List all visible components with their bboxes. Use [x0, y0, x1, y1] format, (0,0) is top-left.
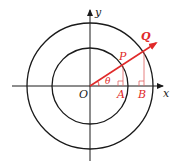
point-b-label: B: [137, 88, 146, 101]
right-angle-a: [118, 81, 123, 86]
point-p-label: P: [118, 50, 127, 63]
point-q-label: Q: [141, 30, 151, 43]
x-axis-label: x: [163, 87, 170, 100]
angle-arc: [98, 81, 100, 86]
point-a-label: A: [116, 88, 125, 101]
angle-theta-label: θ: [105, 76, 111, 86]
unit-circle-diagram: y x O P Q A B θ: [0, 0, 179, 168]
right-angle-b: [139, 81, 144, 86]
y-axis-label: y: [94, 6, 102, 19]
origin-label: O: [79, 88, 88, 101]
